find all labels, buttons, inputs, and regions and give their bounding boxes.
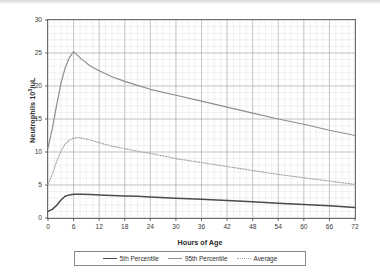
x-tick-label: 12 <box>86 223 112 230</box>
y-tick-label: 10 <box>20 148 42 155</box>
y-tick-label: 0 <box>20 214 42 221</box>
line-swatch-icon <box>103 258 117 259</box>
y-tick-label: 30 <box>20 16 42 23</box>
y-tick-label: 25 <box>20 49 42 56</box>
legend-label: 95th Percentile <box>185 255 228 262</box>
x-axis-title: Hours of Age <box>44 238 356 247</box>
y-tick-label: 15 <box>20 115 42 122</box>
dotted-line-swatch-icon <box>237 258 251 259</box>
legend-item-average[interactable]: Average <box>237 255 278 262</box>
x-tick-label: 36 <box>189 223 215 230</box>
chart-figure: Neutrophils 103/uL Hours of Age 05101520… <box>0 0 380 277</box>
x-tick-label: 54 <box>265 223 291 230</box>
top-gradient-band <box>0 0 380 4</box>
line-swatch-icon <box>168 258 182 259</box>
x-tick-label: 48 <box>240 223 266 230</box>
major-gridlines <box>48 20 355 218</box>
y-axis-title: Neutrophils 103/uL <box>27 40 37 180</box>
plot-canvas <box>0 0 380 277</box>
y-tick-label: 20 <box>20 82 42 89</box>
chart-legend: 5th Percentile 95th Percentile Average <box>74 251 306 266</box>
legend-label: Average <box>254 255 278 262</box>
x-tick-label: 60 <box>291 223 317 230</box>
legend-label: 5th Percentile <box>120 255 159 262</box>
x-tick-label: 24 <box>137 223 163 230</box>
legend-item-95th-percentile[interactable]: 95th Percentile <box>168 255 228 262</box>
y-tick-label: 5 <box>20 181 42 188</box>
legend-item-5th-percentile[interactable]: 5th Percentile <box>103 255 159 262</box>
x-tick-label: 72 <box>342 223 368 230</box>
x-tick-label: 0 <box>35 223 61 230</box>
x-tick-label: 30 <box>163 223 189 230</box>
axis-tick-marks <box>45 20 355 221</box>
x-tick-label: 66 <box>316 223 342 230</box>
x-tick-label: 18 <box>112 223 138 230</box>
x-tick-label: 42 <box>214 223 240 230</box>
x-tick-label: 6 <box>61 223 87 230</box>
